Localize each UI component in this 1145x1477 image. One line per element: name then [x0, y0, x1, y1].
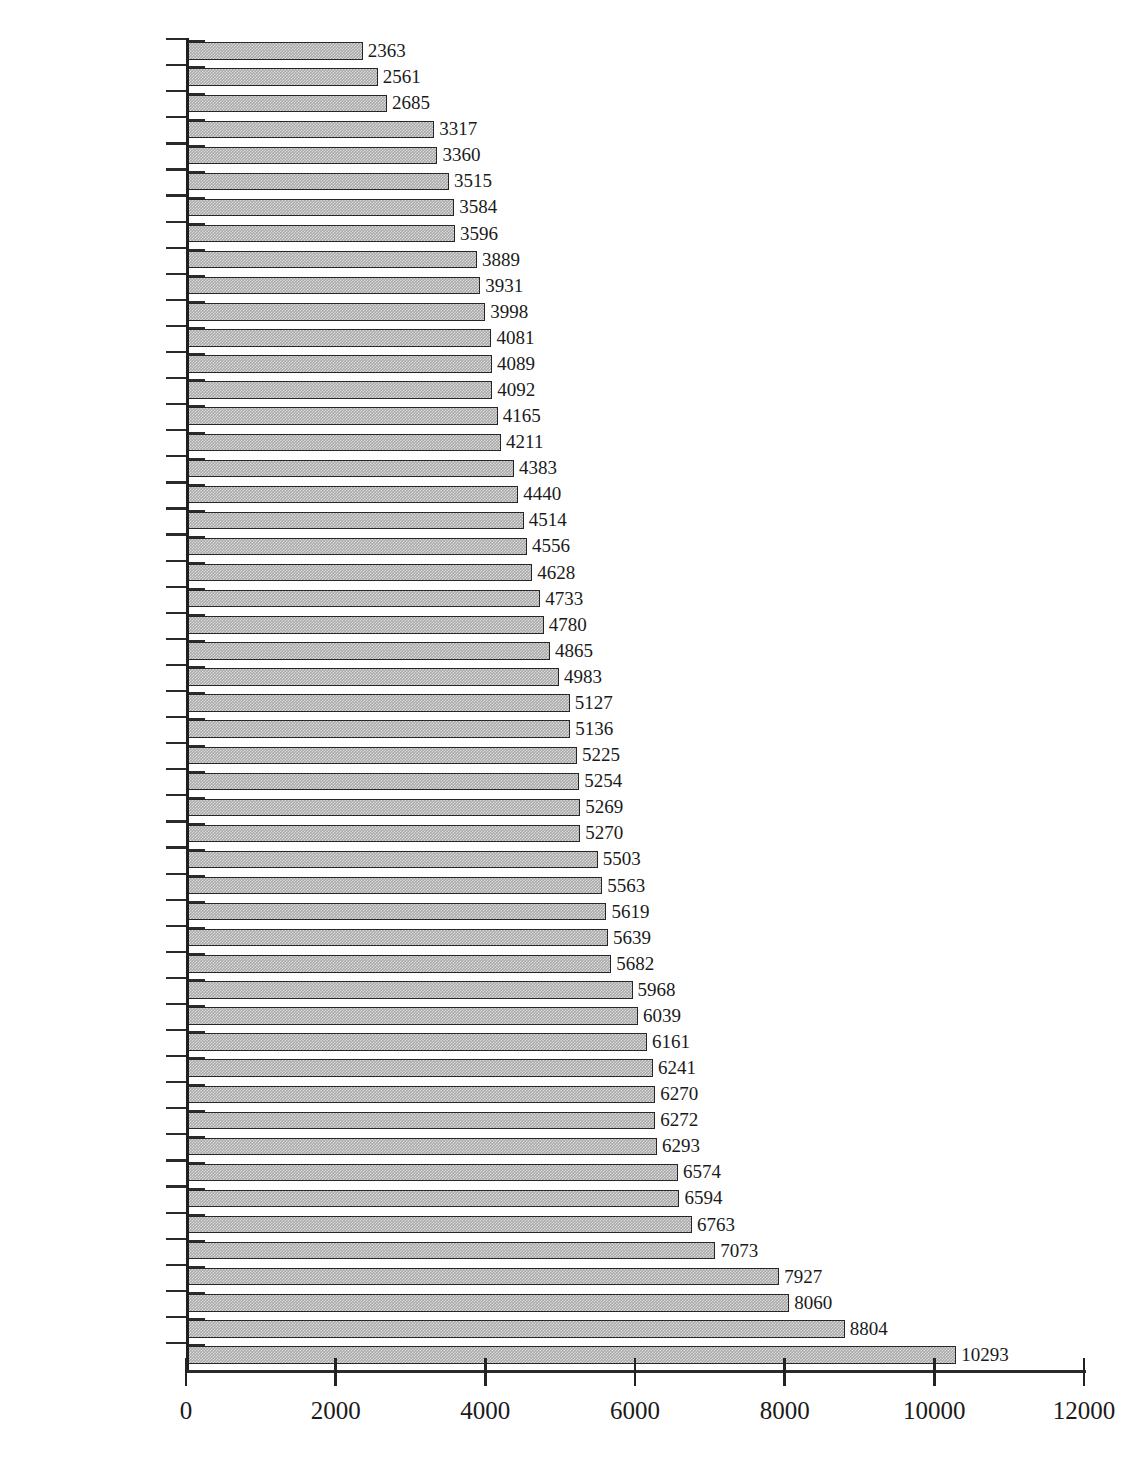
y-axis-tick	[166, 1029, 186, 1031]
bar-value-label: 2561	[378, 64, 421, 90]
y-axis-tick	[166, 429, 186, 431]
bar-row: Maryland5563	[186, 873, 1084, 899]
y-axis-tick	[166, 716, 186, 718]
bar-row: Vermont4089	[186, 351, 1084, 377]
bar	[186, 929, 608, 946]
bar-row: Michigan5968	[186, 977, 1084, 1003]
bar-value-label: 3889	[477, 247, 520, 273]
bar-row: South Carolina5619	[186, 899, 1084, 925]
y-axis-tick	[166, 899, 186, 901]
x-axis-tick	[484, 1358, 487, 1386]
x-axis-tick	[783, 1358, 786, 1386]
x-axis-tick-label: 2000	[256, 1396, 416, 1426]
y-axis-tick	[166, 38, 186, 40]
bar-value-label: 4440	[518, 481, 561, 507]
bar-row: Indiana4440	[186, 481, 1084, 507]
bar-value-label: 5563	[602, 873, 645, 899]
bar-value-label: 2685	[387, 90, 430, 116]
bar-value-label: 4165	[498, 403, 541, 429]
bar-row: Wyoming3889	[186, 247, 1084, 273]
bar-row: Hawaii6270	[186, 1081, 1084, 1107]
bar-value-label: 4865	[550, 638, 593, 664]
y-axis-tick	[166, 403, 186, 405]
bar-value-label: 5270	[580, 820, 623, 846]
y-axis-tick	[166, 90, 186, 92]
x-axis-tick-label: 12000	[1004, 1396, 1145, 1426]
y-axis-tick	[166, 221, 186, 223]
bar	[186, 1294, 789, 1311]
bar-value-label: 4383	[514, 455, 557, 481]
y-axis-tick	[166, 299, 186, 301]
bar-row: Virginia4211	[186, 429, 1084, 455]
bar	[186, 1138, 657, 1155]
bar-row: New Hampshire3596	[186, 221, 1084, 247]
y-axis-tick	[166, 1342, 186, 1344]
bar	[186, 538, 527, 555]
bar-row: Arkansas4556	[186, 533, 1084, 559]
bar-value-label: 2363	[363, 38, 406, 64]
bar-row: Texas7927	[186, 1264, 1084, 1290]
bar-value-label: 4780	[544, 612, 587, 638]
bar-row: Ohio4733	[186, 586, 1084, 612]
plot-area: West Virginia2363North Dakota2561South D…	[186, 38, 1084, 1368]
bar	[186, 694, 570, 711]
bar	[186, 1059, 653, 1076]
bar-value-label: 5619	[606, 899, 649, 925]
bar-row: Louisiana6241	[186, 1055, 1084, 1081]
bar-row: South Dakota2685	[186, 90, 1084, 116]
bar	[186, 381, 492, 398]
bar-value-label: 4089	[492, 351, 535, 377]
y-axis-tick	[166, 1055, 186, 1057]
bar-value-label: 3998	[485, 299, 528, 325]
x-axis-tick	[185, 1358, 188, 1386]
bar-value-label: 6293	[657, 1133, 700, 1159]
bar-value-label: 6270	[655, 1081, 698, 1107]
x-axis-tick	[1083, 1358, 1086, 1386]
y-axis-tick	[166, 1264, 186, 1266]
bar-row: Montana3998	[186, 299, 1084, 325]
bar	[186, 486, 518, 503]
y-axis-tick	[166, 1107, 186, 1109]
bar-row: Pennsylvania3360	[186, 142, 1084, 168]
bar	[186, 642, 550, 659]
y-axis-tick	[166, 455, 186, 457]
y-axis-tick	[166, 794, 186, 796]
x-axis-tick-label: 6000	[555, 1396, 715, 1426]
bar	[186, 303, 485, 320]
y-axis-tick	[166, 1316, 186, 1318]
bar-value-label: 8804	[845, 1316, 888, 1342]
bar-row: Kansas4983	[186, 664, 1084, 690]
bar	[186, 1216, 692, 1233]
bar	[186, 1268, 779, 1285]
bar-row: Idaho3931	[186, 273, 1084, 299]
bar-row: West Virginia2363	[186, 38, 1084, 64]
y-axis-tick	[166, 168, 186, 170]
bar	[186, 747, 577, 764]
bar	[186, 1007, 638, 1024]
bar-row: North Dakota2561	[186, 64, 1084, 90]
y-axis-tick	[166, 690, 186, 692]
x-axis-tick	[634, 1358, 637, 1386]
y-axis-tick	[166, 481, 186, 483]
y-axis-tick	[166, 377, 186, 379]
y-axis-tick	[166, 507, 186, 509]
bar-value-label: 5682	[611, 951, 654, 977]
y-axis-tick	[166, 1081, 186, 1083]
y-axis-tick	[166, 142, 186, 144]
bar-row: Oregon6161	[186, 1029, 1084, 1055]
y-axis-spine	[186, 38, 189, 1370]
bar	[186, 825, 580, 842]
y-axis-tick	[166, 664, 186, 666]
x-axis-tick	[334, 1358, 337, 1386]
y-axis-tick	[166, 1212, 186, 1214]
y-axis-tick	[166, 1003, 186, 1005]
bar	[186, 1190, 679, 1207]
bar	[186, 590, 540, 607]
bar-row: Oklahoma5503	[186, 846, 1084, 872]
bar-value-label: 3317	[434, 116, 477, 142]
y-axis-tick	[166, 560, 186, 562]
y-axis-tick	[166, 116, 186, 118]
y-axis-tick	[166, 873, 186, 875]
bar-value-label: 3584	[454, 194, 497, 220]
y-axis-tick	[166, 1159, 186, 1161]
